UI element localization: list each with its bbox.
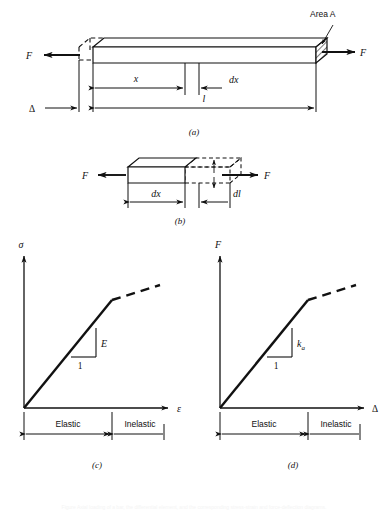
figure-page: F F Area A x bbox=[0, 0, 388, 517]
chart-d-inelastic-branch bbox=[308, 285, 356, 300]
chart-c-inelastic-branch bbox=[112, 285, 160, 300]
chart-c-inelastic-label: Inelastic bbox=[124, 419, 156, 429]
chart-c-elastic-label: Elastic bbox=[55, 419, 81, 429]
force-label-right: F bbox=[359, 47, 367, 58]
chart-d-elastic-label: Elastic bbox=[251, 419, 277, 429]
dimension-l-label: l bbox=[203, 93, 206, 104]
chart-d-run-label: 1 bbox=[274, 361, 279, 371]
chart-c-y-axis-label: σ bbox=[19, 239, 25, 250]
chart-c-slope-label: E bbox=[100, 338, 107, 349]
panel-label-c: (c) bbox=[92, 460, 102, 470]
chart-d-x-axis-label: Δ bbox=[372, 404, 378, 414]
chart-c-run-label: 1 bbox=[78, 361, 83, 371]
dimension-x-label: x bbox=[133, 73, 139, 84]
figure-canvas: F F Area A x bbox=[0, 0, 388, 517]
chart-d-elastic-branch bbox=[220, 300, 308, 408]
panel-label-b: (b) bbox=[175, 216, 186, 226]
bar-body bbox=[93, 38, 327, 63]
chart-d-y-axis-label: F bbox=[214, 239, 222, 250]
dimension-delta-label: Δ bbox=[29, 104, 35, 114]
chart-d-slope-label: ka bbox=[297, 338, 305, 352]
chart-c-slope-triangle bbox=[71, 328, 96, 357]
force-label-right-b: F bbox=[263, 170, 271, 181]
chart-c-x-axis-label: ε bbox=[177, 403, 181, 414]
area-label: Area A bbox=[310, 9, 336, 19]
element-stretched-outline bbox=[185, 158, 241, 183]
panel-b-element-assembly: F F dx dl (b) bbox=[81, 158, 271, 226]
force-label-left: F bbox=[25, 50, 33, 61]
panel-a-bar-assembly: F F Area A x bbox=[25, 9, 367, 137]
panel-label-d: (d) bbox=[288, 460, 299, 470]
panel-label-a: (a) bbox=[189, 127, 200, 137]
force-label-left-b: F bbox=[81, 170, 89, 181]
panel-c-stress-strain-chart: σ ε E 1 bbox=[19, 239, 181, 470]
chart-d-slope-triangle bbox=[267, 328, 292, 357]
dimension-dx-label-b: dx bbox=[151, 188, 161, 199]
figure-caption: Figure Axial loading of a bar, the diffe… bbox=[62, 504, 327, 510]
extension-lines bbox=[79, 60, 316, 112]
dimension-dx-label: dx bbox=[229, 74, 239, 85]
chart-c-elastic-branch bbox=[24, 300, 112, 408]
chart-d-slope-label-subscript: a bbox=[301, 344, 305, 352]
chart-d-inelastic-label: Inelastic bbox=[320, 419, 352, 429]
dimension-dl-label-b: dl bbox=[233, 188, 241, 199]
panel-d-force-deflection-chart: F Δ ka 1 bbox=[214, 239, 378, 470]
extension-lines-b bbox=[128, 183, 230, 208]
element-body bbox=[128, 158, 196, 183]
